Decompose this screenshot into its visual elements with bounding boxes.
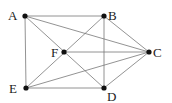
graph-diagram: ABCDEF bbox=[0, 0, 172, 103]
node-label-a: A bbox=[8, 8, 18, 23]
node-label-e: E bbox=[9, 81, 17, 96]
edge-e-c bbox=[26, 52, 149, 88]
edges-group bbox=[25, 16, 149, 88]
labels-group: ABCDEF bbox=[8, 8, 162, 103]
node-b bbox=[101, 13, 106, 18]
node-a bbox=[22, 13, 27, 18]
edge-a-c bbox=[25, 16, 149, 52]
node-label-f: F bbox=[51, 45, 58, 60]
node-f bbox=[61, 49, 66, 54]
edge-d-c bbox=[104, 52, 149, 88]
node-label-b: B bbox=[108, 8, 117, 23]
node-label-c: C bbox=[153, 45, 162, 60]
node-c bbox=[146, 49, 151, 54]
edge-a-e bbox=[25, 16, 26, 88]
node-d bbox=[101, 85, 106, 90]
node-label-d: D bbox=[107, 89, 116, 103]
node-e bbox=[23, 85, 28, 90]
